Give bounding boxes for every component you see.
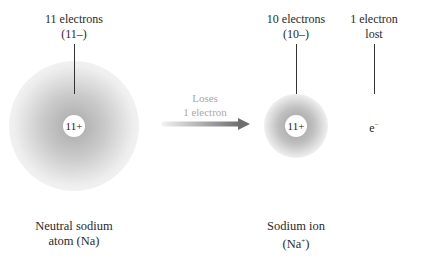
ion-nucleus: 11+ — [285, 115, 307, 137]
atom-name-line2: atom (Na) — [14, 234, 134, 249]
atom-name-line1: Neutral sodium — [14, 219, 134, 234]
atom-nucleus-charge: 11+ — [66, 120, 83, 132]
lost-electron-line1: 1 electron — [334, 12, 414, 27]
atom-electron-charge: (11–) — [24, 27, 124, 42]
ion-leader-line — [296, 44, 297, 94]
atom-leader-line — [74, 44, 75, 94]
lost-electron-label: 1 electron lost — [334, 12, 414, 42]
transition-arrow-icon — [160, 116, 252, 132]
transition-label: Loses 1 electron — [165, 91, 245, 119]
atom-nucleus: 11+ — [63, 115, 85, 137]
lost-electron-leader-line — [374, 44, 375, 94]
lost-electron-line2: lost — [334, 27, 414, 42]
ion-name-line2: (Na+) — [236, 234, 356, 252]
ion-electron-count-label: 10 electrons (10–) — [246, 12, 346, 42]
atom-electron-count-label: 11 electrons (11–) — [24, 12, 124, 42]
ion-electron-charge: (10–) — [246, 27, 346, 42]
atom-electron-count: 11 electrons — [24, 12, 124, 27]
ion-electron-count: 10 electrons — [246, 12, 346, 27]
ion-name-label: Sodium ion (Na+) — [236, 219, 356, 252]
ion-nucleus-charge: 11+ — [288, 120, 305, 132]
ion-name-line1: Sodium ion — [236, 219, 356, 234]
atom-name-label: Neutral sodium atom (Na) — [14, 219, 134, 249]
transition-label-line1: Loses — [165, 91, 245, 105]
electron-symbol: e− — [354, 118, 394, 136]
